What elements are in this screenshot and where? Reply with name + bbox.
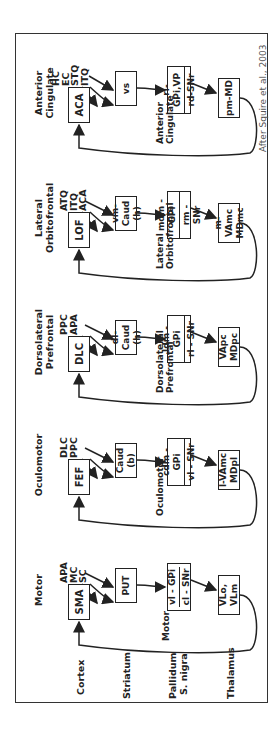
thalamus-box-lof: m-VAmcMDmc (218, 203, 240, 243)
circuit-title-lof: LateralOrbitofrontal (33, 183, 55, 253)
thalamus-box-dlpfc: VApcMDpc (218, 327, 240, 367)
loop-label-dlpfc: DorsolateralPrefrontal (155, 330, 175, 393)
thalamus-box-aca: pm-MD (218, 78, 240, 118)
row-label-snigra: S. nigra (178, 653, 189, 695)
circuit-title-motor: Motor (33, 555, 44, 625)
pallidum-box-motor: vl - GPicl - SNr (167, 563, 191, 611)
circuit-title-dlpfc: DorsolateralPrefrontal (33, 307, 55, 377)
striatum-box-motor: PUT (115, 568, 137, 603)
cortex-box-oculomotor: FEF (68, 459, 90, 495)
cortex-box-motor: SMA (68, 584, 90, 620)
loop-label-lof: LateralOrbitofrontal (155, 202, 175, 269)
striatum-box-aca: vs (115, 71, 137, 106)
thalamus-box-oculomotor: l-VAmcMDpl (218, 450, 240, 490)
cortical-inputs-motor: APAMCSC (59, 562, 88, 583)
cortical-inputs-dlpfc: PPCAPA (59, 314, 78, 335)
circuit-title-oculomotor: Oculomotor (33, 430, 44, 500)
row-label-thalamus: Thalamus (225, 647, 236, 699)
cortex-box-dlpfc: DLC (68, 336, 90, 372)
striatum-box-lof: vm-Caud(h) (115, 196, 137, 231)
basal-ganglia-circuits-diagram: Cortex Striatum Pallidum S. nigra Thalam… (15, 33, 270, 705)
thalamus-box-motor: VLo,VLm (218, 575, 240, 615)
pallidum-box-oculomotor: cdm - GPivl - SNr (167, 438, 191, 486)
loop-label-motor: Motor (161, 611, 171, 641)
striatum-box-oculomotor: Caud(b) (115, 443, 137, 478)
cortical-inputs-lof: ATQITQACA (59, 189, 88, 211)
striatum-box-dlpfc: dl-Caud(h) (115, 320, 137, 355)
cortical-inputs-oculomotor: DLCPPC (59, 437, 78, 458)
row-label-striatum: Striatum (121, 652, 132, 699)
row-label-cortex: Cortex (75, 660, 86, 695)
loop-label-aca: AnteriorCingulate (155, 95, 175, 144)
cortex-box-aca: ACA (68, 87, 90, 123)
row-label-pallidum: Pallidum (167, 653, 178, 699)
cortex-box-lof: LOF (68, 212, 90, 248)
cortical-inputs-aca: HCECSTQITQ (51, 65, 89, 86)
loop-label-oculomotor: Oculomotor (155, 457, 165, 516)
